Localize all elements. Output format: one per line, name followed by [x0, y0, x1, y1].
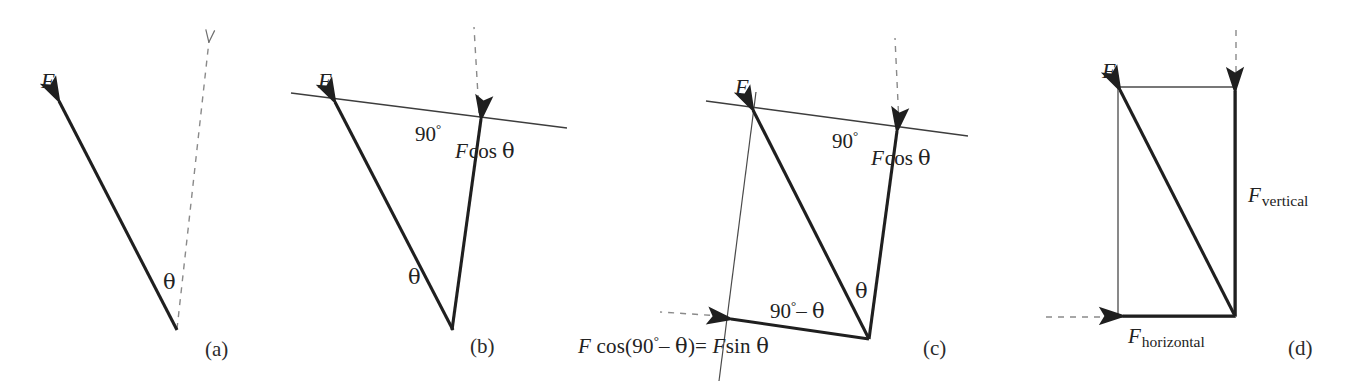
panel-c-component-perp-label: Fcos θ	[871, 148, 931, 169]
panel-c-angle-complement-minus: –	[796, 299, 807, 323]
panel-c-equation-lhs-theta: θ	[675, 334, 688, 358]
panel-c-dashed-horizontal-reference	[660, 312, 722, 316]
panel-c-equation-lhs-number: 90	[632, 334, 653, 358]
panel-b-right-angle-value: 90	[415, 122, 436, 146]
panel-a-caption: (a)	[205, 339, 228, 360]
panel-b-component-var: F	[455, 139, 469, 163]
panel-c-equation-rhs-var: F	[713, 334, 726, 358]
panel-b-force-label: F	[318, 70, 331, 92]
panel-d-caption: (d)	[1288, 338, 1313, 359]
panel-c-theta-label: θ	[855, 281, 868, 302]
panel-b-theta-label: θ	[408, 267, 421, 288]
panel-d-graphics	[1043, 25, 1236, 317]
panel-a-theta-label: θ	[163, 272, 176, 293]
panel-a-force-label: F	[41, 70, 54, 92]
panel-c-right-angle-value: 90	[832, 129, 853, 153]
panel-c-graphics	[660, 38, 968, 381]
panel-c-component-perp-var: F	[871, 146, 885, 170]
panel-b-component-func: cos	[469, 139, 497, 163]
panel-d-horizontal-component-label: Fhorizontal	[1128, 326, 1205, 350]
panel-c-equation-lhs-var: F	[578, 334, 591, 358]
panel-d-vertical-component-label: Fvertical	[1248, 185, 1308, 209]
panel-c-dashed-vertical-reference	[895, 38, 899, 124]
panel-b-right-angle-label: 90°	[415, 122, 441, 145]
panel-c-right-angle-label: 90°	[832, 129, 858, 152]
panel-a-dashed-vertical-reference	[177, 41, 209, 329]
panel-a-force-vector-F	[59, 101, 177, 330]
panel-d-vertical-component-sub: vertical	[1262, 192, 1309, 209]
panel-b-caption: (b)	[470, 336, 495, 357]
physics-vector-figure: F θ (a) F 90° Fcos θ θ (b) F 90° Fcos θ …	[0, 0, 1358, 391]
panel-b-graphics	[291, 27, 567, 330]
panel-c-equation-label: F cos(90°– θ)= Fsin θ	[578, 334, 769, 357]
panel-c-angle-complement-number: 90	[770, 299, 791, 323]
panel-b-degree-icon: °	[436, 121, 441, 136]
panel-c-equation-lhs-func: cos(	[596, 334, 632, 358]
panel-c-component-perp-func: cos	[885, 146, 913, 170]
panel-b-component-label: Fcos θ	[455, 141, 515, 162]
panel-d-horizontal-component-sub: horizontal	[1142, 333, 1205, 350]
panel-c-angle-complement-theta: θ	[812, 299, 825, 323]
panel-d-force-vector-F	[1120, 90, 1235, 316]
panel-c-equation-rhs-theta: θ	[756, 334, 769, 358]
panel-a-graphics	[59, 41, 209, 330]
panel-c-caption: (c)	[923, 338, 946, 359]
panel-d-force-label: F	[1102, 60, 1115, 82]
panel-c-equation-lhs-minus: –	[659, 334, 675, 358]
panel-d-horizontal-component-var: F	[1128, 324, 1142, 348]
panel-c-component-perp-angle: θ	[918, 146, 931, 170]
panel-c-equation-equals: =	[695, 334, 707, 358]
panel-d-vertical-component-var: F	[1248, 183, 1262, 207]
panel-c-degree-icon: °	[853, 128, 858, 143]
panel-c-equation-rhs-func: sin	[726, 334, 751, 358]
panel-c-angle-complement-label: 90°– θ	[770, 299, 825, 322]
panel-b-dashed-vertical-reference	[474, 27, 479, 113]
panel-c-force-label: F	[735, 76, 748, 98]
panel-b-component-angle: θ	[502, 139, 515, 163]
